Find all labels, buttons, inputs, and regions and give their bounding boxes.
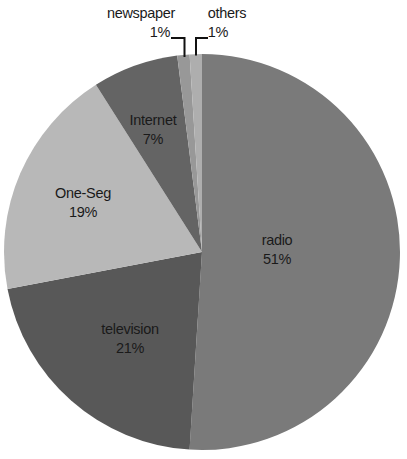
slice-percent-one-seg: 19% bbox=[55, 203, 111, 222]
pie-svg bbox=[0, 0, 407, 459]
slice-percent-radio: 51% bbox=[262, 250, 293, 269]
pie-slice-radio bbox=[190, 54, 400, 450]
slice-label-others: others bbox=[208, 4, 247, 23]
slice-label-one-seg: One-Seg 19% bbox=[55, 184, 111, 222]
slice-label-internet: Internet 7% bbox=[130, 111, 177, 149]
pie-slices-group bbox=[4, 54, 400, 450]
slice-name-television: television bbox=[101, 320, 158, 339]
slice-percent-newspaper: 1% bbox=[150, 23, 170, 42]
newspaper-leader-line bbox=[171, 38, 185, 57]
slice-name-internet: Internet bbox=[130, 111, 177, 130]
slice-percent-television: 21% bbox=[101, 339, 158, 358]
slice-percent-internet: 7% bbox=[130, 130, 177, 149]
pie-chart-figure: radio 51% television 21% One-Seg 19% Int… bbox=[0, 0, 407, 459]
slice-name-radio: radio bbox=[262, 231, 293, 250]
slice-label-television: television 21% bbox=[101, 320, 158, 358]
slice-label-radio: radio 51% bbox=[262, 231, 293, 269]
slice-percent-others: 1% bbox=[208, 23, 228, 42]
slice-label-newspaper: newspaper bbox=[107, 4, 175, 23]
slice-name-one-seg: One-Seg bbox=[55, 184, 111, 203]
others-leader-line bbox=[196, 38, 208, 56]
